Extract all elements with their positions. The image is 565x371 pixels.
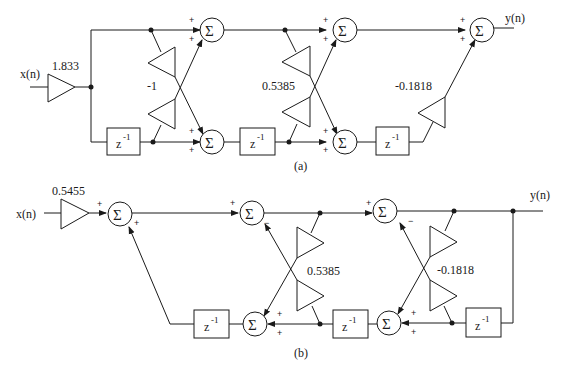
- wire: [310, 40, 336, 97]
- input-gain-triangle-b: [61, 199, 89, 229]
- sum-symbol: Σ: [113, 207, 122, 223]
- delay-exp: -1: [123, 132, 131, 142]
- lattice-gain-b2: -0.1818: [437, 263, 474, 277]
- gain-triangle: [148, 47, 175, 77]
- wire: [311, 213, 320, 233]
- plus-sign: +: [230, 198, 235, 208]
- wire: [312, 306, 320, 324]
- input-gain-a: 1.833: [52, 59, 79, 73]
- junction-dot: [318, 322, 323, 327]
- wire: [265, 224, 297, 280]
- plus-sign: +: [323, 34, 328, 44]
- gain-triangle: [430, 280, 457, 311]
- gain-triangle: [282, 46, 310, 76]
- sum-symbol: Σ: [338, 135, 347, 151]
- wire: [445, 40, 475, 97]
- plus-sign: +: [277, 309, 282, 319]
- diagram-canvas: x(n) 1.833 z -1 -1 Σ + + Σ + +: [0, 0, 565, 371]
- delay-exp: -1: [257, 132, 265, 142]
- plus-sign: +: [189, 145, 194, 155]
- wire: [129, 227, 170, 324]
- gain-triangle: [297, 280, 324, 311]
- input-label-b: x(n): [16, 207, 36, 221]
- delay-z: z: [342, 320, 347, 334]
- lattice-gain-a2: 0.5385: [262, 79, 295, 93]
- lattice-structure-a: x(n) 1.833 z -1 -1 Σ + + Σ + +: [20, 11, 525, 173]
- plus-sign: +: [366, 198, 371, 208]
- output-label-a: y(n): [505, 11, 525, 25]
- plus-sign: +: [189, 34, 194, 44]
- sum-symbol: Σ: [338, 23, 347, 39]
- plus-sign: +: [460, 34, 465, 44]
- plus-sign: +: [323, 15, 328, 25]
- lattice-gain-a1: -1: [147, 79, 157, 93]
- wire: [153, 125, 161, 142]
- delay-exp: -1: [482, 314, 490, 324]
- plus-sign: +: [411, 308, 416, 318]
- delay-z: z: [475, 319, 480, 333]
- plus-sign: +: [323, 126, 328, 136]
- lattice-structure-b: x(n) 0.5455 + Σ + + Σ − + 0.5385 Σ + +: [16, 184, 550, 360]
- plus-sign: +: [189, 15, 194, 25]
- delay-exp: -1: [349, 315, 357, 325]
- gain-triangle: [418, 97, 445, 128]
- sum-symbol: Σ: [205, 23, 214, 39]
- input-gain-b: 0.5455: [52, 184, 85, 198]
- lattice-gain-b1: 0.5385: [307, 264, 340, 278]
- caption-b: (b): [294, 346, 308, 360]
- sum-symbol: Σ: [205, 135, 214, 151]
- delay-z: z: [250, 137, 255, 151]
- wire: [398, 257, 430, 314]
- gain-triangle: [148, 99, 175, 129]
- delay-exp: -1: [211, 315, 219, 325]
- gain-triangle: [282, 97, 310, 127]
- delay-exp: -1: [392, 132, 400, 142]
- wire: [445, 211, 454, 231]
- wire: [423, 122, 433, 142]
- wire: [264, 258, 297, 316]
- sum-symbol: Σ: [382, 316, 391, 332]
- sum-symbol: Σ: [475, 23, 484, 39]
- sum-symbol: Σ: [245, 206, 254, 222]
- delay-z: z: [116, 137, 121, 151]
- input-label-a: x(n): [20, 67, 40, 81]
- gain-triangle: [430, 226, 457, 257]
- sum-symbol: Σ: [378, 204, 387, 220]
- plus-sign: +: [97, 199, 102, 209]
- wire: [444, 306, 452, 323]
- plus-sign: +: [411, 327, 416, 337]
- junction-dot: [450, 321, 455, 326]
- minus-sign: −: [408, 216, 413, 226]
- wire: [289, 124, 297, 142]
- sum-symbol: Σ: [248, 317, 257, 333]
- lattice-gain-a3: -0.1818: [395, 79, 432, 93]
- plus-sign: +: [189, 126, 194, 136]
- plus-sign: +: [323, 145, 328, 155]
- wire: [175, 40, 202, 99]
- caption-a: (a): [294, 159, 307, 173]
- plus-sign: +: [277, 328, 282, 338]
- wire: [400, 223, 430, 280]
- delay-z: z: [204, 320, 209, 334]
- plus-sign: +: [460, 15, 465, 25]
- delay-z: z: [385, 137, 390, 151]
- plus-sign: +: [134, 218, 139, 228]
- output-label-b: y(n): [530, 188, 550, 202]
- input-gain-triangle-a: [48, 74, 75, 102]
- wire: [285, 30, 296, 52]
- wire: [151, 30, 161, 52]
- gain-triangle: [297, 227, 324, 258]
